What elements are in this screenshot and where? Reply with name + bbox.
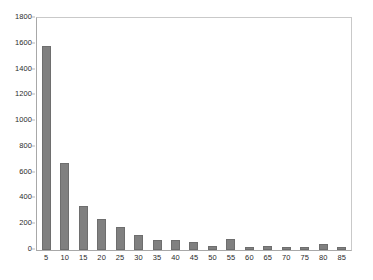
bar [337,247,346,250]
y-axis-tick-mark [32,197,35,198]
y-axis-tick-mark [32,17,35,18]
y-axis-tick-label: 200 [0,219,32,227]
bar-slot [92,18,110,250]
y-axis-tick-label: 1600 [0,39,32,47]
bar [226,239,235,250]
plot-area [37,18,351,250]
y-axis-tick-mark [32,223,35,224]
x-axis-tick-label: 55 [222,254,240,268]
bar-slot [111,18,129,250]
y-axis-tick-mark [32,94,35,95]
bar-chart: 020040060080010001200140016001800 510152… [0,0,373,280]
y-axis-tick-mark [32,120,35,121]
bar-slot [296,18,314,250]
bar [60,163,69,250]
y-axis-tick-mark [32,249,35,250]
x-axis-tick-label: 35 [148,254,166,268]
y-axis-tick-mark [32,68,35,69]
bar [282,247,291,250]
bar [300,247,309,250]
bar-slot [74,18,92,250]
x-axis-tick-label: 40 [166,254,184,268]
bar [116,227,125,250]
x-axis-tick-label: 60 [240,254,258,268]
x-axis-tick-label: 20 [92,254,110,268]
y-axis: 020040060080010001200140016001800 [0,17,32,251]
y-axis-tick-label: 1200 [0,91,32,99]
bar-slot [166,18,184,250]
bar [319,244,328,250]
y-axis-tick-mark [32,145,35,146]
x-axis-tick-label: 45 [185,254,203,268]
bar [97,219,106,250]
y-axis-tick-label: 0 [0,245,32,253]
bar [208,246,217,251]
x-axis-tick-label: 80 [314,254,332,268]
y-axis-tick-label: 1400 [0,65,32,73]
y-axis-tick-label: 600 [0,168,32,176]
x-axis-tick-label: 65 [259,254,277,268]
bar [42,46,51,250]
bar-slot [277,18,295,250]
y-axis-tick-mark [32,171,35,172]
y-axis-tick-label: 1800 [0,13,32,21]
bar [134,235,143,250]
bar [79,206,88,250]
x-axis-tick-label: 85 [333,254,351,268]
bar [171,240,180,250]
bar [153,240,162,250]
bar-slot [148,18,166,250]
y-axis-tick-label: 800 [0,142,32,150]
bar-slot [222,18,240,250]
bar-slot [314,18,332,250]
bar [189,242,198,250]
x-axis-tick-label: 70 [277,254,295,268]
bar-slot [55,18,73,250]
x-axis-tick-label: 15 [74,254,92,268]
bar-slot [37,18,55,250]
y-axis-tick-label: 400 [0,194,32,202]
bar-slot [203,18,221,250]
y-axis-tick-mark [32,42,35,43]
bar-slot [185,18,203,250]
bar-slot [333,18,351,250]
x-axis-tick-label: 50 [203,254,221,268]
bar [263,246,272,250]
x-axis: 510152025303540455055606570758085 [37,254,351,268]
x-axis-tick-label: 30 [129,254,147,268]
x-axis-tick-label: 25 [111,254,129,268]
y-axis-tick-label: 1000 [0,116,32,124]
bar-slot [259,18,277,250]
x-axis-tick-label: 75 [296,254,314,268]
bar [245,247,254,250]
x-axis-tick-label: 10 [55,254,73,268]
bar-slot [240,18,258,250]
x-axis-tick-label: 5 [37,254,55,268]
bar-slot [129,18,147,250]
